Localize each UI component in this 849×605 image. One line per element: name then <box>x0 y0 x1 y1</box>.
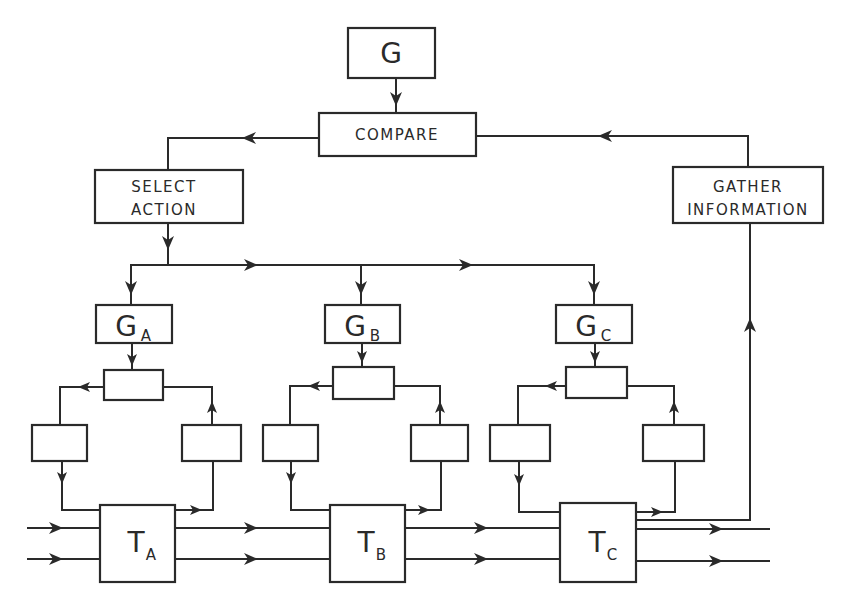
svg-text:B: B <box>370 327 380 345</box>
svg-text:INFORMATION: INFORMATION <box>687 201 809 219</box>
svg-text:G: G <box>380 37 402 70</box>
controller-box <box>263 425 318 461</box>
subsystem-c: G C T C <box>490 305 704 582</box>
select-action-box: SELECT ACTION <box>95 170 243 223</box>
svg-text:T: T <box>587 526 606 559</box>
svg-text:T: T <box>356 526 375 559</box>
svg-text:C: C <box>607 546 617 564</box>
svg-text:G: G <box>115 310 137 343</box>
svg-text:G: G <box>575 310 597 343</box>
compare-box: COMPARE <box>319 113 476 156</box>
svg-text:B: B <box>376 546 386 564</box>
subsystem-b: G B T B <box>263 305 468 582</box>
svg-text:GATHER: GATHER <box>713 178 783 196</box>
svg-text:ACTION: ACTION <box>131 201 197 219</box>
comparator-box <box>333 367 394 399</box>
sensor-box <box>411 425 468 461</box>
svg-text:G: G <box>344 310 366 343</box>
controller-box <box>490 425 550 461</box>
svg-text:SELECT: SELECT <box>131 178 196 196</box>
comparator-box <box>104 370 163 400</box>
subsystem-a: G A T A <box>32 305 241 582</box>
comparator-box <box>566 367 627 398</box>
svg-text:A: A <box>141 327 152 345</box>
svg-text:COMPARE: COMPARE <box>355 126 439 144</box>
control-hierarchy-diagram: G COMPARE SELECT ACTION GATHER INFORMATI… <box>0 0 849 605</box>
svg-text:T: T <box>126 526 145 559</box>
sensor-box <box>643 425 704 461</box>
controller-box <box>32 425 87 461</box>
goal-box: G <box>348 28 435 78</box>
gather-information-box: GATHER INFORMATION <box>673 167 823 223</box>
sensor-box <box>182 425 241 461</box>
svg-text:A: A <box>146 546 157 564</box>
svg-text:C: C <box>601 327 611 345</box>
